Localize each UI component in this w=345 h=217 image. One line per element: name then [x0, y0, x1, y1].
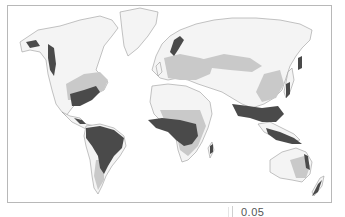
north-america: [20, 16, 118, 116]
south-asia-forest: [232, 104, 284, 122]
world-map: [0, 0, 345, 217]
axis-tick: [228, 207, 229, 217]
kamchatka-forest: [298, 56, 302, 70]
scale-label: 0.05: [241, 207, 264, 217]
japan-forest: [286, 82, 290, 98]
greenland: [120, 8, 158, 56]
axis-tick: [232, 206, 233, 217]
